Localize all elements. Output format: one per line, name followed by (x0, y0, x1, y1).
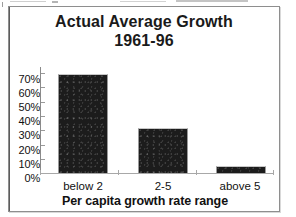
scan-artifact (176, 0, 248, 2)
x-tick-mark (196, 170, 197, 175)
y-tick-label: 70% (9, 74, 40, 85)
y-tick-label: 20% (9, 145, 40, 156)
y-tick-label: 50% (9, 102, 40, 113)
x-axis-title: Per capita growth rate range (9, 194, 281, 208)
scan-artifact (2, 2, 3, 7)
bar-above-5[interactable] (216, 166, 266, 173)
scan-artifact (52, 1, 58, 3)
x-cat-label-2-5: 2-5 (128, 179, 198, 193)
x-tick-mark (273, 170, 274, 175)
y-tick-label: 30% (9, 130, 40, 141)
x-tick-mark (118, 170, 119, 175)
x-tick-mark (40, 170, 41, 175)
scanned-figure-page: Actual Average Growth 1961-96 70% 60% 50… (0, 0, 296, 217)
x-cat-label-below-2: below 2 (48, 179, 118, 193)
y-tick-label: 0% (9, 173, 40, 184)
scan-artifact (10, 1, 46, 2)
x-cat-label-above-5: above 5 (205, 179, 275, 193)
chart-frame: Actual Average Growth 1961-96 70% 60% 50… (8, 6, 280, 212)
bar-below-2[interactable] (58, 74, 108, 173)
plot-area: 70% 60% 50% 40% 30% 20% 10% 0% (9, 7, 281, 213)
y-tick-label: 40% (9, 116, 40, 127)
x-axis-line (40, 173, 274, 174)
x-axis-category-labels: below 2 2-5 above 5 (40, 179, 274, 195)
y-tick-label: 10% (9, 159, 40, 170)
scan-artifact (120, 1, 166, 2)
y-tick-label: 60% (9, 88, 40, 99)
bar-2-5[interactable] (138, 128, 188, 173)
